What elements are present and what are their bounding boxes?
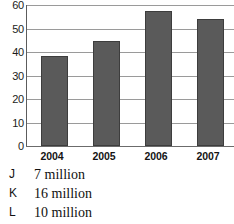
x-tick-label: 2005 (78, 150, 130, 162)
y-tick-label: 0 (2, 141, 24, 152)
y-tick-label: 10 (2, 118, 24, 129)
plot-area (26, 5, 234, 146)
y-axis-tick-labels: 0102030405060 (0, 0, 24, 151)
option-letter: K (9, 185, 23, 202)
bar-2005 (93, 41, 120, 146)
y-tick-label: 30 (2, 71, 24, 82)
option-letter: J (9, 166, 23, 183)
bar-2007 (197, 19, 224, 146)
option-text: 16 million (34, 185, 92, 202)
x-axis-tick-labels: 2004200520062007 (26, 150, 234, 164)
bar-2006 (145, 11, 172, 146)
x-tick-label: 2004 (26, 150, 78, 162)
option-text: 7 million (34, 166, 85, 183)
y-tick-label: 60 (2, 0, 24, 11)
gridline-0 (26, 146, 234, 147)
y-tick-label: 20 (2, 94, 24, 105)
y-axis-line (26, 5, 27, 146)
question-figure: 0102030405060 2004200520062007 J7 millio… (0, 0, 234, 224)
answer-options-list: J7 millionK16 millionL10 million (0, 166, 234, 224)
answer-option-l[interactable]: L10 million (0, 204, 234, 223)
bar-2004 (41, 56, 68, 146)
x-tick-label: 2006 (130, 150, 182, 162)
option-text: 10 million (34, 204, 92, 221)
y-tick-label: 50 (2, 24, 24, 35)
y-tick-label: 40 (2, 47, 24, 58)
option-letter: L (9, 204, 23, 221)
answer-option-j[interactable]: J7 million (0, 166, 234, 185)
answer-option-k[interactable]: K16 million (0, 185, 234, 204)
bar-series (26, 5, 234, 146)
x-tick-label: 2007 (182, 150, 234, 162)
bar-chart: 0102030405060 2004200520062007 (0, 0, 234, 164)
